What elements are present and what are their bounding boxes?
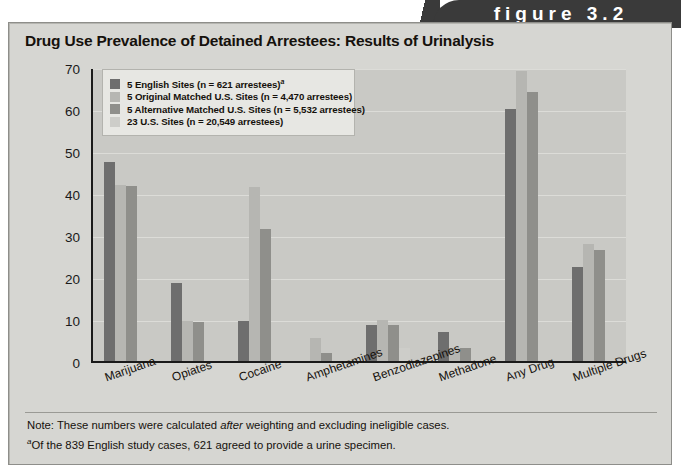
legend-swatch	[110, 117, 120, 127]
bar	[171, 283, 182, 361]
y-axis-tick-label: 40	[40, 188, 80, 203]
bar	[583, 244, 594, 361]
footnote-line: aOf the 839 English study cases, 621 agr…	[27, 437, 396, 451]
figure-page: figure 3.2 Drug Use Prevalence of Detain…	[0, 0, 681, 472]
footnote-text: Of the 839 English study cases, 621 agre…	[31, 439, 395, 451]
y-axis-tick-label: 60	[40, 104, 80, 119]
bar	[193, 322, 204, 361]
bar	[527, 92, 538, 361]
y-axis-tick-label: 30	[40, 230, 80, 245]
note-italic-word: after	[220, 419, 243, 431]
legend-swatch	[110, 104, 120, 114]
legend-item: 5 English Sites (n = 621 arrestees)a	[110, 78, 346, 90]
legend-item: 23 U.S. Sites (n = 20,549 arrestees)	[110, 116, 346, 127]
bar	[115, 185, 126, 361]
bar	[238, 321, 249, 361]
bar	[182, 321, 193, 361]
bar-group	[561, 69, 628, 361]
y-axis-tick-label: 0	[40, 356, 80, 371]
legend-superscript: a	[280, 78, 284, 85]
legend-item: 5 Original Matched U.S. Sites (n = 4,470…	[110, 91, 346, 102]
legend-swatch	[110, 92, 120, 102]
chart-legend: 5 English Sites (n = 621 arrestees)a5 Or…	[102, 69, 355, 136]
legend-item: 5 Alternative Matched U.S. Sites (n = 5,…	[110, 104, 346, 115]
y-axis-tick-label: 50	[40, 146, 80, 161]
bar	[104, 162, 115, 362]
notes-divider	[25, 412, 657, 413]
bar-group	[361, 69, 428, 361]
y-axis-tick-label: 70	[40, 62, 80, 77]
bar	[321, 353, 332, 361]
bar	[249, 187, 260, 361]
bar-group	[494, 69, 561, 361]
bar	[516, 71, 527, 361]
note-line: Note: These numbers were calculated afte…	[27, 419, 449, 431]
note-suffix: weighting and excluding ineligible cases…	[243, 419, 450, 431]
bar	[260, 229, 271, 361]
legend-label: 5 Alternative Matched U.S. Sites (n = 5,…	[127, 104, 365, 115]
legend-label: 23 U.S. Sites (n = 20,549 arrestees)	[127, 116, 283, 127]
legend-label: 5 Original Matched U.S. Sites (n = 4,470…	[127, 91, 352, 102]
bar	[126, 186, 137, 361]
bar-group	[427, 69, 494, 361]
bar	[388, 325, 399, 361]
figure-card: Drug Use Prevalence of Detained Arrestee…	[8, 22, 672, 465]
legend-label: 5 English Sites (n = 621 arrestees)a	[127, 78, 284, 90]
note-prefix: Note: These numbers were calculated	[27, 419, 220, 431]
y-axis-tick-label: 20	[40, 272, 80, 287]
bar	[572, 267, 583, 361]
y-axis-tick-label: 10	[40, 314, 80, 329]
legend-swatch	[110, 79, 120, 89]
bar	[505, 109, 516, 361]
bar	[310, 338, 321, 361]
page-title: Drug Use Prevalence of Detained Arrestee…	[25, 32, 494, 50]
bar	[594, 250, 605, 361]
